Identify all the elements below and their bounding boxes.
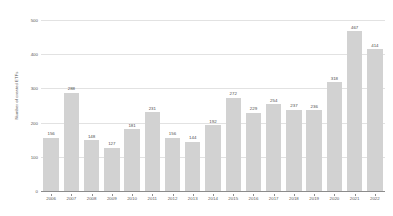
x-axis-tick-labels: 2006200720082009201020112012201320142015…: [41, 194, 385, 208]
bar[interactable]: [64, 93, 79, 191]
x-axis-tick-label: 2012: [162, 196, 182, 201]
x-axis-tick-label: 2016: [243, 196, 263, 201]
bar-value-label: 288: [61, 86, 81, 91]
bar[interactable]: [246, 113, 261, 191]
bar-group[interactable]: 254: [264, 0, 284, 191]
bar-group[interactable]: 231: [142, 0, 162, 191]
x-axis-tick-label: 2022: [365, 196, 385, 201]
bar-group[interactable]: 156: [41, 0, 61, 191]
bar[interactable]: [327, 82, 342, 191]
bar-group[interactable]: 181: [122, 0, 142, 191]
bar-value-label: 144: [183, 135, 203, 140]
bar-value-label: 192: [203, 119, 223, 124]
bar-group[interactable]: 237: [284, 0, 304, 191]
bar-value-label: 231: [142, 106, 162, 111]
bar-value-label: 254: [264, 98, 284, 103]
bar-group[interactable]: 144: [183, 0, 203, 191]
bar[interactable]: [124, 129, 139, 191]
bar[interactable]: [185, 142, 200, 191]
bar-group[interactable]: 467: [345, 0, 365, 191]
bar[interactable]: [306, 110, 321, 191]
bar[interactable]: [266, 104, 281, 191]
y-axis-tick-label: 300: [16, 86, 38, 91]
x-axis-tick-label: 2015: [223, 196, 243, 201]
x-axis-tick-label: 2021: [345, 196, 365, 201]
x-axis-tick-label: 2008: [81, 196, 101, 201]
y-axis-tick-label: 400: [16, 52, 38, 57]
bar-value-label: 156: [41, 131, 61, 136]
bar[interactable]: [367, 49, 382, 191]
bar-value-label: 229: [243, 106, 263, 111]
bar-group[interactable]: 288: [61, 0, 81, 191]
bar[interactable]: [347, 31, 362, 191]
x-axis-tick-label: 2020: [324, 196, 344, 201]
bar-group[interactable]: 127: [102, 0, 122, 191]
bar-value-label: 272: [223, 91, 243, 96]
bars-layer: 1562881481271812311561441922722292542372…: [41, 0, 385, 191]
x-axis-tick-label: 2010: [122, 196, 142, 201]
bar-value-label: 414: [365, 43, 385, 48]
x-axis-tick-label: 2009: [102, 196, 122, 201]
bar-chart: Number of created ETFs 0100200300400500 …: [0, 0, 393, 216]
bar[interactable]: [104, 148, 119, 191]
bar-value-label: 236: [304, 104, 324, 109]
bar-value-label: 237: [284, 103, 304, 108]
bar[interactable]: [165, 138, 180, 191]
bar[interactable]: [84, 140, 99, 191]
bar[interactable]: [43, 138, 58, 191]
y-axis-tick-label: 500: [16, 18, 38, 23]
bar-group[interactable]: 229: [243, 0, 263, 191]
x-axis-tick-label: 2011: [142, 196, 162, 201]
x-axis-tick-label: 2018: [284, 196, 304, 201]
bar-group[interactable]: 272: [223, 0, 243, 191]
bar-group[interactable]: 156: [162, 0, 182, 191]
x-axis-tick-label: 2006: [41, 196, 61, 201]
x-axis-tick-label: 2013: [183, 196, 203, 201]
x-axis-tick-label: 2019: [304, 196, 324, 201]
bar-value-label: 467: [345, 25, 365, 30]
bar-group[interactable]: 414: [365, 0, 385, 191]
bar-group[interactable]: 192: [203, 0, 223, 191]
bar[interactable]: [145, 112, 160, 191]
bar-value-label: 148: [81, 134, 101, 139]
bar[interactable]: [205, 125, 220, 191]
y-axis-tick-label: 200: [16, 120, 38, 125]
bar-group[interactable]: 318: [324, 0, 344, 191]
bar-value-label: 181: [122, 123, 142, 128]
bar[interactable]: [286, 110, 301, 191]
x-axis-line: [41, 191, 385, 192]
y-axis-tick-label: 0: [16, 189, 38, 194]
bar-group[interactable]: 236: [304, 0, 324, 191]
bar-group[interactable]: 148: [81, 0, 101, 191]
x-axis-tick-label: 2014: [203, 196, 223, 201]
bar-value-label: 127: [102, 141, 122, 146]
bar[interactable]: [226, 98, 241, 191]
bar-value-label: 318: [324, 76, 344, 81]
bar-value-label: 156: [162, 131, 182, 136]
y-axis-tick-labels: 0100200300400500: [12, 0, 38, 216]
x-axis-tick-label: 2007: [61, 196, 81, 201]
y-axis-tick-label: 100: [16, 154, 38, 159]
x-axis-tick-label: 2017: [264, 196, 284, 201]
